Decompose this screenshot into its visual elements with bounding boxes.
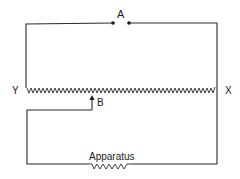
apparatus-resistor [89, 164, 130, 169]
circuit-diagram: A Y X B Apparatus [0, 0, 240, 179]
label-apparatus: Apparatus [89, 151, 135, 162]
label-x: X [225, 85, 232, 96]
wire-top-left [26, 23, 113, 88]
label-b: B [97, 97, 104, 108]
wire-lower-left [27, 110, 92, 164]
slider-arrow-icon [90, 95, 95, 100]
slide-wire-resistor [27, 87, 215, 93]
terminal-dot-right [127, 21, 131, 25]
terminal-dot-left [111, 21, 115, 25]
label-y: Y [12, 85, 19, 96]
label-a: A [117, 8, 125, 20]
